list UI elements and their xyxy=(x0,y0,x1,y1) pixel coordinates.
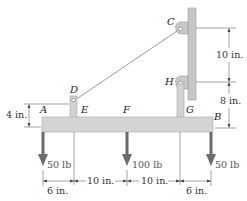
label-point-a: A xyxy=(40,105,47,115)
label-point-f: F xyxy=(123,105,130,115)
dim-label-e-f: 10 in. xyxy=(87,176,114,186)
cable-dc xyxy=(75,29,180,100)
dim-label-f-g: 10 in. xyxy=(141,176,168,186)
mechanics-diagram xyxy=(0,0,247,201)
label-point-e: E xyxy=(81,105,88,115)
pin-c xyxy=(179,27,183,31)
arrowhead xyxy=(228,28,231,32)
label-point-c: C xyxy=(167,17,175,27)
arrowhead xyxy=(228,124,231,128)
pin-d xyxy=(72,98,76,102)
arrowhead xyxy=(28,104,31,108)
arrowhead xyxy=(28,123,31,127)
arrowhead xyxy=(228,78,231,82)
load-label-a: 50 lb xyxy=(47,160,71,170)
load-arrow-f xyxy=(122,132,132,166)
label-point-h: H xyxy=(165,77,174,87)
dim-label-10in-vertical: 10 in. xyxy=(216,50,243,60)
load-label-b: 50 lb xyxy=(215,160,239,170)
label-point-d: D xyxy=(70,85,78,95)
dim-label-8in-vertical: 8 in. xyxy=(220,96,241,106)
dim-label-g-b: 6 in. xyxy=(186,186,207,196)
dim-label-a-e: 6 in. xyxy=(47,186,68,196)
load-label-f: 100 lb xyxy=(132,160,162,170)
post-g xyxy=(177,84,184,118)
dim-label-4in: 4 in. xyxy=(6,110,27,120)
label-point-g: G xyxy=(186,105,194,115)
arrowhead xyxy=(228,82,231,86)
label-point-b: B xyxy=(214,112,221,122)
vertical-wall xyxy=(188,8,196,100)
beam-ab xyxy=(42,117,213,132)
